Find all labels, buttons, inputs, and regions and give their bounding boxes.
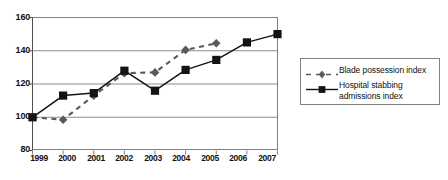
x-tick-2007: 2007 <box>250 154 284 163</box>
legend-key-dashed-diamond-icon <box>305 66 339 77</box>
legend-label-hospital-stabbing-admissions-index: Hospital stabbing admissions index <box>339 80 403 101</box>
y-tick-80: 80 <box>2 145 30 154</box>
y-tick-140: 140 <box>2 46 30 55</box>
legend-key-solid-square-icon <box>305 81 339 92</box>
legend-item-blade-possession-index: Blade possession index <box>305 65 426 77</box>
y-tick-120: 120 <box>2 79 30 88</box>
legend-item-hospital-stabbing-admissions-index: Hospital stabbing admissions index <box>305 80 403 101</box>
legend-label-blade-possession-index: Blade possession index <box>339 65 426 76</box>
line-chart: 160 140 120 100 80 1999 2000 2001 2002 2… <box>0 0 448 180</box>
y-axis-tick-labels: 160 140 120 100 80 <box>0 0 30 180</box>
y-tick-160: 160 <box>2 13 30 22</box>
legend: Blade possession index Hospital stabbing… <box>300 58 440 105</box>
y-tick-100: 100 <box>2 112 30 121</box>
plot-area-frame <box>32 17 278 150</box>
